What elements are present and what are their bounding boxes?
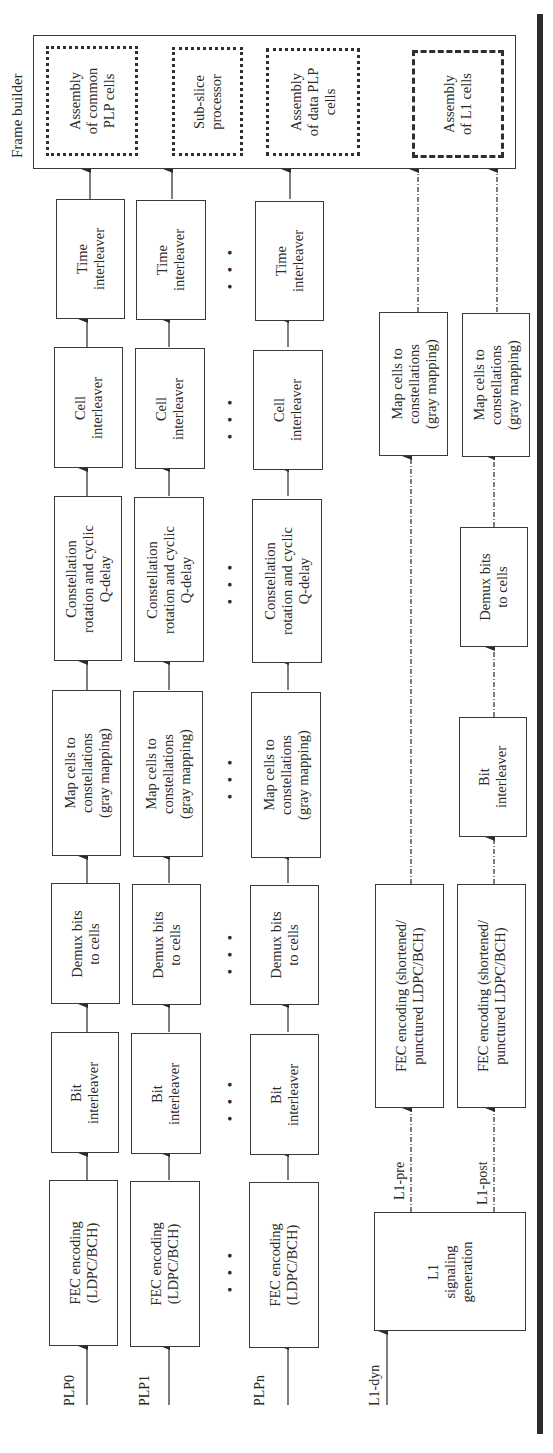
- plpn-time-interleaver: Time interleaver: [255, 201, 324, 321]
- plp0-constellation-rotation: Constellation rotation and cyclic Q-dela…: [54, 496, 122, 661]
- plpn-constellation-rotation: Constellation rotation and cyclic Q-dela…: [252, 499, 322, 663]
- plp1-bit-interleaver: Bit interleaver: [131, 1033, 201, 1154]
- ellipsis-icon: • • •: [223, 396, 238, 439]
- l1-dyn-input-label: L1-dyn: [367, 1365, 383, 1406]
- plp0-fec-encoding: FEC encoding (LDPC/BCH): [49, 1180, 118, 1346]
- plpn-map-cells: Map cells to constellations (gray mappin…: [251, 692, 321, 858]
- plp1-demux: Demux bits to cells: [132, 884, 201, 1005]
- assembly-data-plp-cells: Assembly of data PLP cells: [266, 48, 360, 156]
- plp1-input-label: PLP1: [137, 1375, 153, 1406]
- l1-post-demux: Demux bits to cells: [460, 527, 528, 647]
- sub-slice-processor: Sub-slice processor: [172, 47, 243, 156]
- plp1-time-interleaver: Time interleaver: [136, 200, 206, 320]
- l1-pre-fec-encoding: FEC encoding (shortened/ punctured LDPC/…: [375, 884, 444, 1108]
- ellipsis-icon: • • •: [223, 931, 238, 974]
- ellipsis-icon: • • •: [223, 246, 238, 289]
- l1-post-bit-interleaver: Bit interleaver: [459, 717, 527, 837]
- page-edge-bar: [537, 14, 543, 1434]
- plpn-demux: Demux bits to cells: [250, 885, 319, 1005]
- plp0-input-label: PLP0: [62, 1375, 78, 1406]
- plp1-map-cells: Map cells to constellations (gray mappin…: [133, 691, 203, 857]
- l1-post-fec-encoding: FEC encoding (shortened/ punctured LDPC/…: [457, 884, 526, 1108]
- plpn-fec-encoding: FEC encoding (LDPC/BCH): [249, 1182, 319, 1348]
- plp1-fec-encoding: FEC encoding (LDPC/BCH): [130, 1181, 200, 1347]
- assembly-l1-cells: Assembly of L1 cells: [412, 50, 504, 158]
- ellipsis-icon: • • •: [223, 561, 238, 604]
- plp0-map-cells: Map cells to constellations (gray mappin…: [52, 690, 121, 856]
- ellipsis-icon: • • •: [223, 1078, 238, 1121]
- l1-pre-map-cells: Map cells to constellations (gray mappin…: [379, 312, 448, 456]
- plp0-time-interleaver: Time interleaver: [56, 199, 125, 319]
- assembly-common-plp-cells: Assembly of common PLP cells: [46, 46, 138, 156]
- plpn-input-label: PLPn: [252, 1375, 268, 1406]
- plp0-cell-interleaver: Cell interleaver: [54, 347, 123, 468]
- l1-post-label: L1-post: [475, 1161, 491, 1205]
- ellipsis-icon: • • •: [223, 756, 238, 799]
- l1-pre-label: L1-pre: [392, 1162, 408, 1200]
- l1-signaling-generation: L1 signaling generation: [374, 1212, 526, 1331]
- plp0-demux: Demux bits to cells: [51, 883, 120, 1004]
- plpn-bit-interleaver: Bit interleaver: [250, 1034, 319, 1155]
- frame-builder-title: Frame builder: [9, 73, 26, 158]
- l1-post-map-cells: Map cells to constellations (gray mappin…: [462, 313, 530, 457]
- ellipsis-icon: • • •: [223, 1249, 238, 1292]
- plp1-cell-interleaver: Cell interleaver: [135, 348, 205, 469]
- plp0-bit-interleaver: Bit interleaver: [51, 1032, 119, 1153]
- plpn-cell-interleaver: Cell interleaver: [253, 350, 323, 470]
- plp1-constellation-rotation: Constellation rotation and cyclic Q-dela…: [134, 497, 204, 662]
